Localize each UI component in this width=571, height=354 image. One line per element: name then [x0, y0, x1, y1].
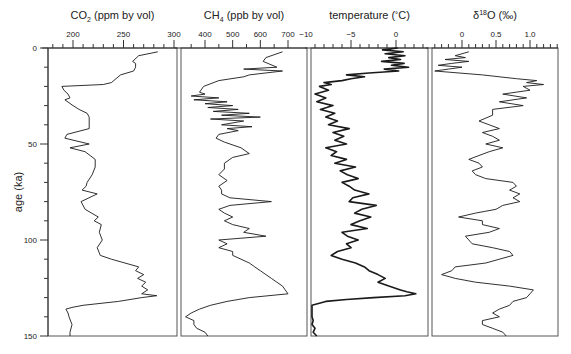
panel-d18o: 00.51.0δ18O (‰): [426, 9, 558, 336]
value-tick-label: 250: [117, 30, 131, 39]
value-tick-label: 600: [254, 30, 268, 39]
co2-series-line: [62, 52, 158, 336]
co2-title: CO2 (ppm by vol): [71, 9, 155, 23]
panel-frame: [48, 48, 177, 336]
age-axis: age (ka) 050100150: [12, 44, 48, 341]
temperature-series-line: [312, 48, 416, 336]
age-tick-label: 0: [33, 44, 38, 53]
value-tick-label: 0: [394, 30, 399, 39]
age-tick-label: 100: [24, 236, 38, 245]
panel-frame: [432, 48, 558, 336]
d18o-series-line: [435, 52, 544, 336]
age-axis-label: age (ka): [12, 172, 24, 212]
value-tick-label: −10: [299, 30, 313, 39]
value-tick-label: −5: [346, 30, 356, 39]
ice-core-chart: age (ka) 050100150 200250300CO2 (ppm by …: [0, 0, 571, 354]
panel-co2: 200250300CO2 (ppm by vol): [42, 9, 181, 336]
panel-temperature: −10−50temperature (˚C): [299, 9, 428, 336]
value-tick-label: 300: [167, 30, 181, 39]
value-tick-label: 200: [66, 30, 80, 39]
ch4-title: CH4 (ppb by vol): [204, 9, 284, 23]
age-tick-label: 150: [24, 332, 38, 341]
panels: 200250300CO2 (ppm by vol)400500600700CH4…: [42, 9, 558, 336]
value-tick-label: 0.5: [490, 30, 502, 39]
value-tick-label: 0: [460, 30, 465, 39]
age-tick-label: 50: [28, 140, 37, 149]
value-tick-label: 400: [198, 30, 212, 39]
d18o-title: δ18O (‰): [473, 9, 517, 21]
ch4-series-line: [186, 52, 288, 336]
value-tick-label: 700: [281, 30, 295, 39]
panel-ch4: 400500600700CH4 (ppb by vol): [175, 9, 307, 336]
temperature-title: temperature (˚C): [329, 9, 410, 21]
value-tick-label: 500: [226, 30, 240, 39]
panel-frames: [48, 48, 558, 336]
value-tick-label: 1.0: [524, 30, 536, 39]
